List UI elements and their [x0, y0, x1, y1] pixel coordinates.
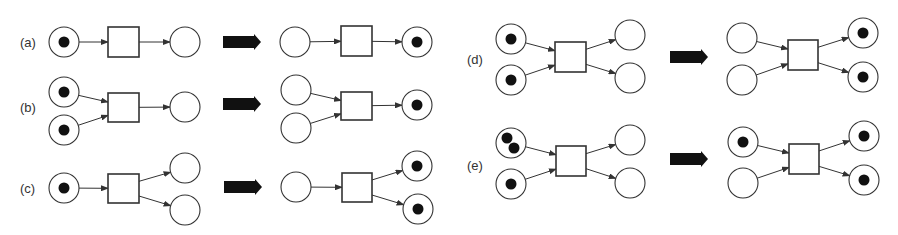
panel-label: (b)	[20, 100, 36, 115]
panels-root: (a)(b)(c)(d)(e)	[20, 18, 879, 225]
place	[170, 195, 200, 225]
place-circle	[728, 168, 758, 198]
place-circle	[170, 153, 200, 183]
net-before	[49, 153, 200, 225]
arc	[526, 147, 556, 155]
place	[170, 92, 200, 122]
place	[170, 27, 200, 57]
place	[615, 125, 645, 155]
arc	[758, 146, 789, 154]
place	[170, 153, 200, 183]
place-circle	[496, 128, 526, 158]
panel-label: (d)	[467, 52, 483, 67]
place	[728, 168, 758, 198]
net-after	[280, 26, 432, 57]
panel-c: (c)	[20, 151, 433, 225]
net-after	[281, 75, 432, 143]
token-icon	[502, 133, 513, 144]
token-icon	[859, 175, 870, 186]
transition-box	[556, 146, 586, 176]
net-before	[49, 27, 200, 57]
net-before	[496, 20, 645, 95]
token-icon	[59, 183, 70, 194]
net-after	[727, 18, 878, 95]
place	[848, 62, 878, 92]
place	[496, 65, 526, 95]
arc	[818, 38, 849, 48]
place	[49, 173, 79, 203]
transition-box	[108, 93, 139, 122]
net-after	[728, 121, 879, 198]
place	[496, 128, 526, 158]
panel-label: (a)	[20, 35, 36, 50]
arc	[586, 144, 616, 153]
place-circle	[615, 63, 645, 93]
place-circle	[615, 125, 645, 155]
place	[615, 168, 645, 198]
transition-box	[788, 40, 818, 70]
place	[848, 18, 878, 48]
arc	[525, 43, 555, 51]
place	[849, 165, 879, 195]
arc	[586, 40, 616, 50]
panel-d: (d)	[467, 18, 878, 95]
panel-a: (a)	[20, 26, 432, 57]
place	[49, 77, 79, 107]
place-circle	[281, 113, 311, 143]
token-icon	[858, 28, 869, 39]
arc	[372, 195, 404, 205]
arc	[525, 169, 556, 179]
token-icon	[506, 34, 517, 45]
place	[728, 127, 758, 157]
arc	[819, 166, 850, 175]
arc	[139, 196, 171, 206]
arc	[586, 169, 616, 179]
transition-box	[341, 92, 372, 120]
transition-box	[555, 42, 586, 72]
arc	[757, 167, 789, 178]
place	[727, 65, 757, 95]
petri-net-figure: (a)(b)(c)(d)(e)	[0, 0, 898, 235]
transition-box	[108, 174, 139, 203]
place	[280, 27, 310, 57]
place	[615, 20, 645, 50]
place	[615, 63, 645, 93]
token-icon	[412, 100, 423, 111]
panel-e: (e)	[467, 121, 879, 199]
firing-arrow-icon	[670, 151, 708, 167]
arc	[311, 93, 341, 100]
place	[281, 172, 311, 202]
token-icon	[506, 75, 517, 86]
place	[849, 121, 879, 151]
arc	[756, 64, 788, 75]
place	[727, 23, 757, 53]
place	[402, 27, 432, 57]
place-circle	[280, 27, 310, 57]
place-circle	[727, 65, 757, 95]
place-circle	[170, 92, 200, 122]
place-circle	[727, 23, 757, 53]
arc	[818, 63, 849, 73]
net-before	[49, 77, 200, 145]
place-circle	[281, 75, 311, 105]
place	[496, 24, 526, 54]
place-circle	[170, 195, 200, 225]
token-icon	[509, 143, 520, 154]
place-circle	[281, 172, 311, 202]
transition-box	[341, 26, 372, 56]
arc	[79, 95, 108, 102]
arc	[757, 42, 788, 50]
token-icon	[859, 131, 870, 142]
place	[403, 194, 433, 224]
panel-label: (e)	[467, 158, 483, 173]
token-icon	[412, 161, 423, 172]
token-icon	[59, 87, 70, 98]
place	[281, 113, 311, 143]
arc	[525, 65, 555, 75]
transition-box	[342, 173, 372, 202]
place-circle	[170, 27, 200, 57]
arc	[586, 64, 616, 73]
panel-b: (b)	[20, 75, 432, 145]
firing-arrow-icon	[224, 179, 262, 195]
place-circle	[615, 20, 645, 50]
